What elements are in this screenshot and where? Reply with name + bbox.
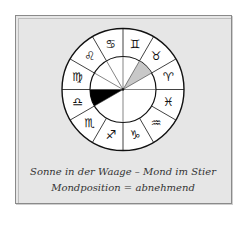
scorpio-icon: ♏ — [84, 116, 95, 130]
capricorn-icon: ♑ — [130, 128, 141, 142]
virgo-icon: ♍ — [72, 70, 83, 84]
libra-icon: ♎ — [72, 95, 83, 109]
caption-sun-moon: Sonne in der Waage – Mond im Stier — [0, 166, 246, 177]
taurus-icon: ♉ — [151, 49, 162, 63]
caption-moon-phase: Mondposition = abnehmend — [0, 182, 246, 193]
gemini-icon: ♊ — [130, 37, 141, 51]
aquarius-icon: ♒ — [151, 116, 162, 130]
cancer-icon: ♋ — [105, 37, 116, 51]
aries-icon: ♈ — [163, 70, 174, 84]
leo-icon: ♌ — [84, 49, 95, 63]
sagittarius-icon: ♐ — [105, 128, 116, 142]
pisces-icon: ♓ — [163, 95, 174, 109]
center-dot — [122, 88, 124, 90]
